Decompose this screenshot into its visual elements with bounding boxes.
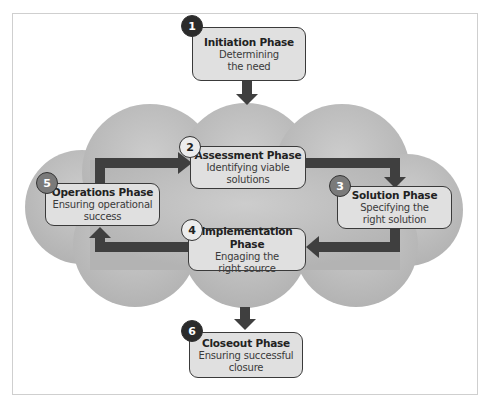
- phase-number-badge-2: 2: [179, 136, 201, 158]
- phase-box-operations: Operations Phase Ensuring operational su…: [45, 183, 160, 226]
- phase-box-initiation: Initiation Phase Determining the need: [192, 27, 306, 81]
- phase-desc-line1: Engaging the: [189, 251, 305, 263]
- phase-number-badge-5: 5: [36, 172, 58, 194]
- phase-desc-line2: success: [46, 211, 159, 223]
- phase-title: Assessment Phase: [191, 149, 305, 162]
- phase-desc-line1: Ensuring operational: [46, 199, 159, 211]
- phase-title: Operations Phase: [46, 186, 159, 199]
- phase-number-badge-6: 6: [181, 320, 203, 342]
- phase-desc-line1: Ensuring successful: [190, 350, 302, 362]
- phase-box-implementation: Implementation Phase Engaging the right …: [188, 228, 306, 271]
- phase-title: Solution Phase: [338, 189, 451, 202]
- phase-title: Closeout Phase: [190, 337, 302, 350]
- phase-desc-line2: the need: [193, 61, 305, 73]
- phase-desc-line1: Specifying the: [338, 202, 451, 214]
- phase-desc-line2: right solution: [338, 214, 451, 226]
- phase-number-badge-1: 1: [181, 15, 203, 37]
- phase-desc-line1: Identifying viable: [191, 162, 305, 174]
- phase-desc-line2: closure: [190, 362, 302, 374]
- phase-box-closeout: Closeout Phase Ensuring successful closu…: [189, 332, 303, 378]
- phase-box-solution: Solution Phase Specifying the right solu…: [337, 186, 452, 229]
- phase-desc-line2: solutions: [191, 174, 305, 186]
- phase-title: Initiation Phase: [193, 36, 305, 49]
- phase-number-badge-3: 3: [329, 175, 351, 197]
- phase-desc-line1: Determining: [193, 49, 305, 61]
- phase-number-badge-4: 4: [181, 219, 203, 241]
- phase-title: Implementation Phase: [189, 225, 305, 251]
- phase-box-assessment: Assessment Phase Identifying viable solu…: [190, 146, 306, 189]
- phase-desc-line2: right source: [189, 263, 305, 275]
